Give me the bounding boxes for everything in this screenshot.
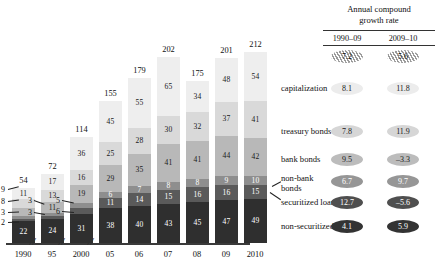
growth-treasury-bonds-1990-09: 7.8 xyxy=(331,125,363,138)
stacked-bar-chart: // // // 54 11 22 9 8 3 2 72 17 13 11 xyxy=(0,0,437,276)
leader-non-bank-bonds xyxy=(272,181,281,186)
callout-1995-securitized: 3 xyxy=(28,208,32,217)
segment-treasury-bonds-06: 28 xyxy=(128,128,151,154)
panel-title-line2: growth rate xyxy=(321,15,437,26)
callout-2000-nonbank: 5 xyxy=(56,196,60,205)
segment-non-securitized-loans-08: 45 xyxy=(186,202,209,243)
segment-capitalization-05: 45 xyxy=(99,101,122,142)
panel-rule-top xyxy=(323,30,435,31)
segment-non-securitized-loans-06: 40 xyxy=(128,206,151,243)
segment-non-securitized-loans-1995: 24 xyxy=(41,219,64,243)
legend-label-non-bank-bonds-line2: bonds xyxy=(281,184,313,194)
segment-treasury-bonds-05: 25 xyxy=(99,142,122,165)
growth-non-bank-bonds-1990-09: 6.7 xyxy=(331,175,363,188)
total-growth-2009-10: 5.6 xyxy=(387,50,419,63)
callout-1990-treasury: 9 xyxy=(1,185,5,194)
legend-label-bank-bonds: bank bonds xyxy=(281,155,320,165)
segment-securitized-loans-05: 11 xyxy=(99,198,122,208)
bar-08[interactable]: 175 34 32 41 8 16 45 xyxy=(186,81,209,243)
legend-label-treasury-bonds: treasury bonds xyxy=(281,127,331,137)
segment-capitalization-06: 55 xyxy=(128,78,151,128)
growth-capitalization-2009-10: 11.8 xyxy=(387,82,419,95)
segment-non-securitized-loans-09: 47 xyxy=(215,200,238,243)
bar-total-07: 202 xyxy=(157,45,180,54)
bar-09[interactable]: 201 48 37 44 9 16 47 xyxy=(215,58,238,243)
segment-treasury-bonds-07: 30 xyxy=(157,116,180,144)
segment-capitalization-1995: 17 xyxy=(41,174,64,190)
segment-treasury-bonds-1995: 13 xyxy=(41,190,64,202)
segment-non-securitized-loans-2000: 31 xyxy=(70,214,93,243)
segment-securitized-loans-06: 14 xyxy=(128,193,151,206)
segment-treasury-bonds-09: 37 xyxy=(215,102,238,136)
bar-1995[interactable]: 72 17 13 11 24 xyxy=(41,174,64,243)
segment-non-bank-bonds-09: 9 xyxy=(215,176,238,185)
panel-title-line1: Annual compound xyxy=(321,4,437,15)
segment-capitalization-09: 48 xyxy=(215,58,238,102)
growth-capitalization-1990-09: 8.1 xyxy=(331,82,363,95)
growth-treasury-bonds-2009-10: 11.9 xyxy=(387,125,419,138)
segment-capitalization-07: 65 xyxy=(157,57,180,116)
growth-securitized-loans-1990-09: 12.7 xyxy=(331,196,363,209)
growth-non-securitized-loans-1990-09: 4.1 xyxy=(331,220,363,233)
growth-bank-bonds-2009-10: –3.3 xyxy=(387,153,419,166)
growth-securitized-loans-2009-10: –5.6 xyxy=(387,196,419,209)
segment-non-bank-bonds-06: 7 xyxy=(128,186,151,193)
bar-total-05: 155 xyxy=(99,89,122,98)
segment-securitized-loans-08: 16 xyxy=(186,187,209,202)
growth-rate-panel: Annual compound growth rate 1990–09 2009… xyxy=(250,0,437,276)
legend-label-capitalization: capitalization xyxy=(281,84,327,94)
segment-treasury-bonds-08: 32 xyxy=(186,112,209,141)
leader-securitized-loans xyxy=(270,192,281,200)
panel-title: Annual compound growth rate xyxy=(321,4,437,25)
column-header-1990-09: 1990–09 xyxy=(323,34,371,43)
segment-capitalization-2000: 36 xyxy=(70,137,93,170)
column-header-2009-10: 2009–10 xyxy=(379,34,427,43)
segment-non-securitized-loans-07: 43 xyxy=(157,204,180,243)
segment-non-bank-bonds-08: 8 xyxy=(186,179,209,187)
segment-bank-bonds-09: 44 xyxy=(215,136,238,176)
bar-total-09: 201 xyxy=(215,46,238,55)
segment-capitalization-08: 34 xyxy=(186,81,209,112)
bar-05[interactable]: 155 45 25 29 6 11 38 xyxy=(99,101,122,243)
callout-2000-securitized: 6 xyxy=(56,207,60,216)
bar-total-2000: 114 xyxy=(70,125,93,134)
segment-non-bank-bonds-07: 8 xyxy=(157,182,180,190)
bar-06[interactable]: 179 55 28 35 7 14 40 xyxy=(128,78,151,243)
growth-non-bank-bonds-2009-10: 9.7 xyxy=(387,175,419,188)
x-axis-line xyxy=(6,243,250,245)
callout-1990-nonbank: 3 xyxy=(1,208,5,217)
segment-bank-bonds-2000: 19 xyxy=(70,185,93,203)
bar-total-08: 175 xyxy=(186,69,209,78)
callout-1995-nonbank: 3 xyxy=(28,196,32,205)
total-growth-1990-09: 7.2 xyxy=(331,50,363,63)
segment-bank-bonds-05: 29 xyxy=(99,165,122,192)
segment-securitized-loans-09: 16 xyxy=(215,185,238,200)
callout-1990-securitized: 2 xyxy=(1,218,5,227)
segment-non-securitized-loans-1990: 22 xyxy=(12,221,35,243)
bar-total-1990: 54 xyxy=(12,176,35,185)
legend-label-non-bank-bonds: non-bank bonds xyxy=(281,174,313,193)
legend-label-securitized-loans: securitized loans xyxy=(281,198,339,208)
callout-1990-bank: 8 xyxy=(1,197,5,206)
growth-non-securitized-loans-2009-10: 5.9 xyxy=(387,220,419,233)
segment-bank-bonds-07: 41 xyxy=(157,144,180,182)
segment-non-securitized-loans-05: 38 xyxy=(99,208,122,243)
segment-bank-bonds-06: 35 xyxy=(128,154,151,186)
growth-bank-bonds-1990-09: 9.5 xyxy=(331,153,363,166)
plot-area: // // // 54 11 22 9 8 3 2 72 17 13 11 xyxy=(0,0,250,276)
panel-rule-mid xyxy=(323,45,435,46)
bar-07[interactable]: 202 65 30 41 8 15 43 xyxy=(157,57,180,243)
bar-total-06: 179 xyxy=(128,66,151,75)
bar-2000[interactable]: 114 36 16 19 31 xyxy=(70,137,93,243)
bar-total-1995: 72 xyxy=(41,162,64,171)
segment-securitized-loans-07: 15 xyxy=(157,190,180,204)
segment-treasury-bonds-2000: 16 xyxy=(70,170,93,185)
segment-bank-bonds-08: 41 xyxy=(186,141,209,179)
